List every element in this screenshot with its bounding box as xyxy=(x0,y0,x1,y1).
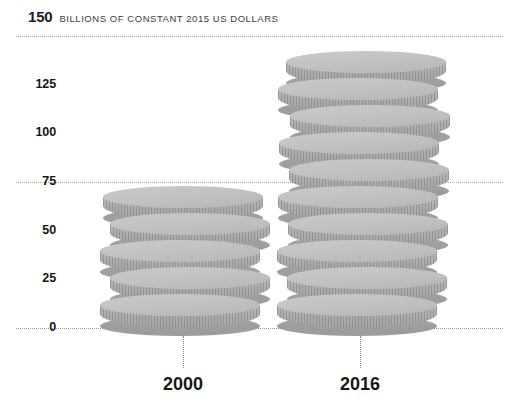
coin-top-face xyxy=(288,213,448,235)
x-leader-2000 xyxy=(183,336,184,368)
coin xyxy=(100,294,260,328)
plot-area: 1251007550250 20002016 xyxy=(0,0,511,415)
coin-stack-2016 xyxy=(277,28,452,328)
coin xyxy=(277,294,437,328)
y-tick-0: 0 xyxy=(2,320,56,334)
coin-stack-2000 xyxy=(100,28,275,328)
coin-top-face xyxy=(100,294,260,316)
x-leader-2016 xyxy=(360,336,361,368)
coin-top-face xyxy=(278,186,438,208)
y-tick-50: 50 xyxy=(2,223,56,237)
coin-top-face xyxy=(110,213,270,235)
coin-top-face xyxy=(287,267,447,289)
coin-top-face xyxy=(286,51,446,73)
coin-top-face xyxy=(290,105,450,127)
x-tick-label-2016: 2016 xyxy=(340,374,380,395)
x-tick-label-2000: 2000 xyxy=(163,374,203,395)
chart-root: 150 BILLIONS OF CONSTANT 2015 US DOLLARS… xyxy=(0,0,511,415)
y-tick-100: 100 xyxy=(2,125,56,139)
y-tick-125: 125 xyxy=(2,77,56,91)
coin-top-face xyxy=(100,240,260,262)
y-tick-25: 25 xyxy=(2,271,56,285)
coin-top-face xyxy=(277,294,437,316)
coin-top-face xyxy=(289,159,449,181)
coin-top-face xyxy=(110,267,270,289)
y-tick-75: 75 xyxy=(2,174,56,188)
coin-top-face xyxy=(277,240,437,262)
coin-top-face xyxy=(279,132,439,154)
coin-top-face xyxy=(278,78,438,100)
coin-top-face xyxy=(103,186,263,208)
